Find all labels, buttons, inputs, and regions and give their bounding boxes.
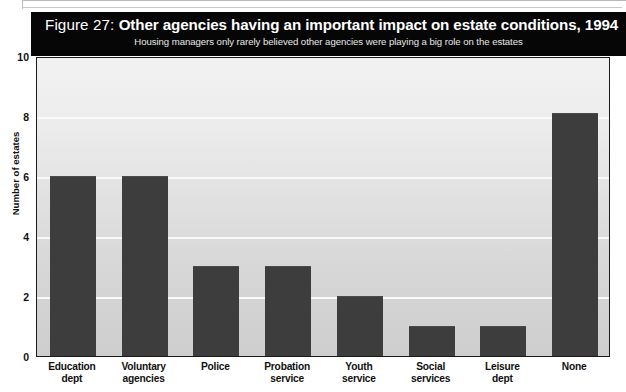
bar (552, 113, 598, 356)
y-tick-label: 0 (23, 351, 29, 363)
y-axis-title: Number of estates (10, 119, 21, 229)
bar (337, 296, 383, 356)
bar (265, 266, 311, 356)
page-edge-line-top (22, 0, 626, 1)
page-edge-line-left (22, 0, 23, 9)
bars-layer (37, 58, 609, 356)
x-axis-category-labels: EducationdeptVoluntaryagenciesPoliceProb… (36, 361, 610, 392)
x-axis-label: Police (180, 361, 252, 373)
bar (122, 176, 168, 356)
figure-title-text: Other agencies having an important impac… (119, 16, 619, 33)
x-axis-label: Educationdept (36, 361, 108, 386)
figure-title-line: Figure 27: Other agencies having an impo… (45, 15, 620, 35)
bar (480, 326, 526, 356)
y-tick-label: 2 (23, 291, 29, 303)
figure-container: Figure 27: Other agencies having an impo… (0, 0, 626, 392)
y-tick-label: 10 (17, 51, 29, 63)
x-axis-label: Voluntaryagencies (108, 361, 180, 386)
x-axis-label: Probationservice (251, 361, 323, 386)
figure-subtitle-text: Housing managers only rarely believed ot… (31, 36, 626, 47)
x-axis-label: Leisuredept (467, 361, 539, 386)
x-axis-label: Socialservices (395, 361, 467, 386)
y-tick-label: 4 (23, 231, 29, 243)
bar (50, 176, 96, 356)
bar (193, 266, 239, 356)
bar (409, 326, 455, 356)
x-axis-label: Youthservice (323, 361, 395, 386)
x-axis-label: None (538, 361, 610, 373)
page-edge-line-secondary (22, 7, 622, 8)
figure-title-banner: Figure 27: Other agencies having an impo… (31, 12, 626, 56)
y-tick-label: 8 (23, 111, 29, 123)
plot-area (36, 57, 610, 357)
y-tick-label: 6 (23, 171, 29, 183)
figure-number-label: Figure 27: (45, 16, 114, 33)
